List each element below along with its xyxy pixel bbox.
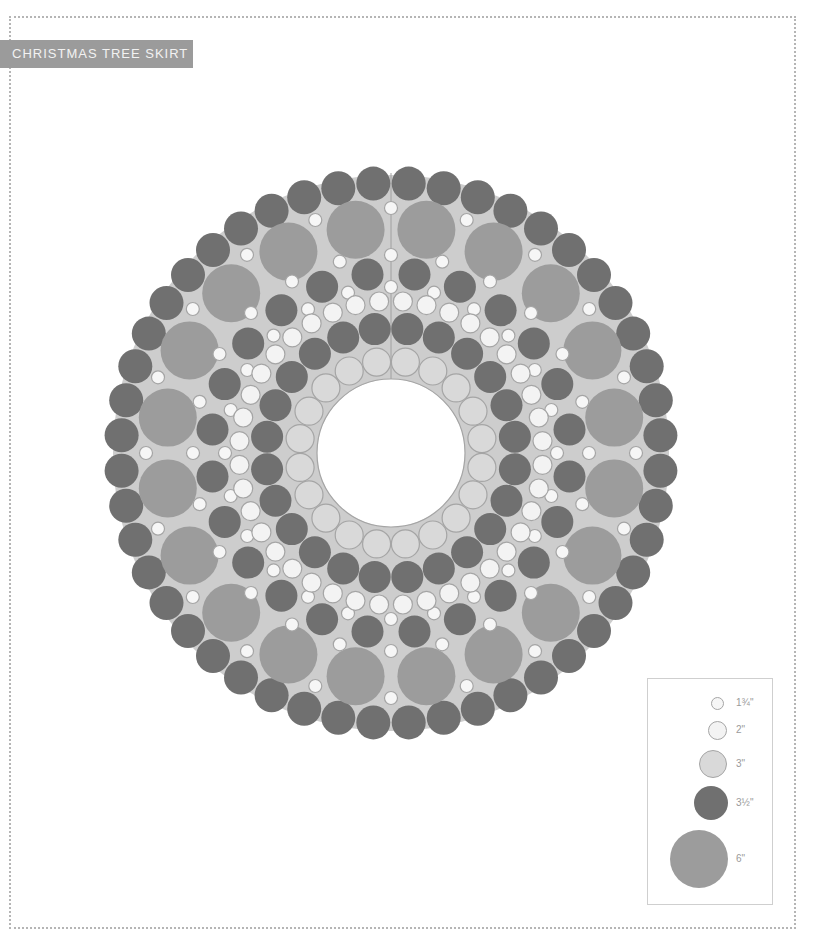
circle-2-icon bbox=[393, 595, 412, 614]
circle-1¾-icon bbox=[245, 307, 258, 320]
circle-3½-icon bbox=[232, 547, 264, 579]
circle-3½-icon bbox=[485, 580, 517, 612]
circle-3½-icon bbox=[474, 361, 506, 393]
circle-1¾-icon bbox=[333, 255, 346, 268]
legend-swatch-icon bbox=[699, 750, 727, 778]
circle-1¾-icon bbox=[630, 447, 643, 460]
circle-6-icon bbox=[585, 459, 643, 517]
circle-3½-icon bbox=[260, 485, 292, 517]
circle-3½-icon bbox=[451, 338, 483, 370]
circle-3½-icon bbox=[616, 317, 650, 351]
circle-2-icon bbox=[283, 559, 302, 578]
legend-label: 2" bbox=[736, 724, 745, 735]
circle-1¾-icon bbox=[556, 546, 569, 559]
circle-2-icon bbox=[529, 408, 548, 427]
circle-3½-icon bbox=[552, 233, 586, 267]
circle-3½-icon bbox=[444, 603, 476, 635]
circle-2-icon bbox=[522, 502, 541, 521]
circle-1¾-icon bbox=[385, 249, 398, 262]
circle-3½-icon bbox=[554, 461, 586, 493]
circle-2-icon bbox=[323, 584, 342, 603]
circle-2-icon bbox=[302, 314, 321, 333]
circle-1¾-icon bbox=[385, 202, 398, 215]
circle-6-icon bbox=[161, 527, 219, 585]
circle-1¾-icon bbox=[551, 447, 564, 460]
circle-3½-icon bbox=[196, 233, 230, 267]
circle-3½-icon bbox=[321, 701, 355, 735]
circle-6-icon bbox=[327, 201, 385, 259]
circle-1¾-icon bbox=[385, 281, 398, 294]
circle-3-icon bbox=[468, 425, 496, 453]
circle-3½-icon bbox=[171, 614, 205, 648]
circle-3-icon bbox=[335, 521, 363, 549]
circle-2-icon bbox=[370, 595, 389, 614]
circle-3½-icon bbox=[150, 286, 184, 320]
circle-3½-icon bbox=[260, 389, 292, 421]
legend-swatch-icon bbox=[694, 786, 728, 820]
circle-1¾-icon bbox=[267, 329, 280, 342]
circle-1¾-icon bbox=[460, 680, 473, 693]
circle-1¾-icon bbox=[502, 564, 515, 577]
circle-6-icon bbox=[327, 647, 385, 705]
circle-1¾-icon bbox=[556, 348, 569, 361]
circle-6-icon bbox=[397, 647, 455, 705]
circle-3½-icon bbox=[196, 639, 230, 673]
circle-1¾-icon bbox=[309, 680, 322, 693]
circle-3½-icon bbox=[518, 327, 550, 359]
circle-3½-icon bbox=[491, 389, 523, 421]
circle-2-icon bbox=[302, 573, 321, 592]
circle-2-icon bbox=[440, 584, 459, 603]
circle-1¾-icon bbox=[484, 275, 497, 288]
circle-1¾-icon bbox=[186, 303, 199, 316]
circle-3½-icon bbox=[399, 259, 431, 291]
circle-6-icon bbox=[563, 527, 621, 585]
circle-6-icon bbox=[563, 321, 621, 379]
circle-3½-icon bbox=[352, 616, 384, 648]
circle-3½-icon bbox=[276, 513, 308, 545]
circle-3½-icon bbox=[299, 536, 331, 568]
circle-2-icon bbox=[252, 523, 271, 542]
circle-1¾-icon bbox=[583, 591, 596, 604]
circle-1¾-icon bbox=[576, 498, 589, 511]
circle-3-icon bbox=[295, 481, 323, 509]
circle-2-icon bbox=[393, 292, 412, 311]
circle-1¾-icon bbox=[286, 275, 299, 288]
circle-3-icon bbox=[468, 453, 496, 481]
circle-3-icon bbox=[391, 530, 419, 558]
legend-label: 3½" bbox=[736, 797, 753, 808]
circle-2-icon bbox=[461, 314, 480, 333]
circle-1¾-icon bbox=[241, 248, 254, 261]
center-hole bbox=[317, 379, 465, 527]
legend-swatch-icon bbox=[670, 830, 728, 888]
circle-3½-icon bbox=[255, 678, 289, 712]
circle-2-icon bbox=[230, 432, 249, 451]
circle-3½-icon bbox=[321, 171, 355, 205]
circle-1¾-icon bbox=[525, 587, 538, 600]
circle-1¾-icon bbox=[309, 214, 322, 227]
circle-6-icon bbox=[139, 389, 197, 447]
circle-1¾-icon bbox=[213, 348, 226, 361]
circle-1¾-icon bbox=[436, 255, 449, 268]
circle-3½-icon bbox=[276, 361, 308, 393]
circle-3½-icon bbox=[356, 167, 390, 201]
circle-3½-icon bbox=[524, 661, 558, 695]
circle-3½-icon bbox=[306, 271, 338, 303]
circle-3½-icon bbox=[577, 614, 611, 648]
circle-3½-icon bbox=[427, 701, 461, 735]
circle-3½-icon bbox=[524, 212, 558, 246]
circle-3-icon bbox=[312, 374, 340, 402]
circle-3½-icon bbox=[209, 506, 241, 538]
circle-2-icon bbox=[522, 385, 541, 404]
circle-3½-icon bbox=[306, 603, 338, 635]
circle-1¾-icon bbox=[502, 329, 515, 342]
circle-1¾-icon bbox=[618, 522, 631, 535]
circle-2-icon bbox=[241, 502, 260, 521]
circle-3½-icon bbox=[150, 586, 184, 620]
circle-3½-icon bbox=[499, 453, 531, 485]
circle-2-icon bbox=[497, 542, 516, 561]
circle-3½-icon bbox=[639, 383, 673, 417]
circle-3½-icon bbox=[132, 555, 166, 589]
circle-3½-icon bbox=[399, 616, 431, 648]
circle-6-icon bbox=[139, 459, 197, 517]
legend-label: 3" bbox=[736, 758, 745, 769]
